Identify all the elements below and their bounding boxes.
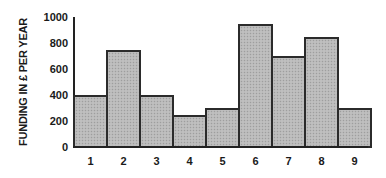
histogram-chart: FUNDING IN £ PER YEAR 02004006008001000 … xyxy=(0,0,386,178)
y-tick-label: 400 xyxy=(50,89,68,101)
x-tick-label: 4 xyxy=(173,155,206,167)
bar-7 xyxy=(271,56,306,148)
x-axis-line xyxy=(73,146,368,148)
y-axis-label: FUNDING IN £ PER YEAR xyxy=(0,0,40,178)
bar-6 xyxy=(238,24,273,149)
y-tick-label: 1000 xyxy=(44,11,68,23)
x-tick-label: 6 xyxy=(239,155,272,167)
x-tick-label: 5 xyxy=(206,155,239,167)
y-tick-label: 200 xyxy=(50,115,68,127)
x-tick-label: 1 xyxy=(74,155,107,167)
x-tick-label: 3 xyxy=(140,155,173,167)
y-tick-label: 800 xyxy=(50,37,68,49)
y-tick-label: 0 xyxy=(62,141,68,153)
x-tick-label: 9 xyxy=(338,155,371,167)
bar-8 xyxy=(304,37,339,149)
x-tick-label: 2 xyxy=(107,155,140,167)
bar-2 xyxy=(106,50,141,149)
y-tick-label: 600 xyxy=(50,63,68,75)
bar-9 xyxy=(337,108,372,148)
bar-3 xyxy=(139,95,174,148)
bar-5 xyxy=(205,108,240,148)
y-axis-label-text: FUNDING IN £ PER YEAR xyxy=(17,18,29,146)
bar-4 xyxy=(172,115,207,149)
bar-1 xyxy=(73,95,108,148)
x-tick-label: 8 xyxy=(305,155,338,167)
x-tick-label: 7 xyxy=(272,155,305,167)
